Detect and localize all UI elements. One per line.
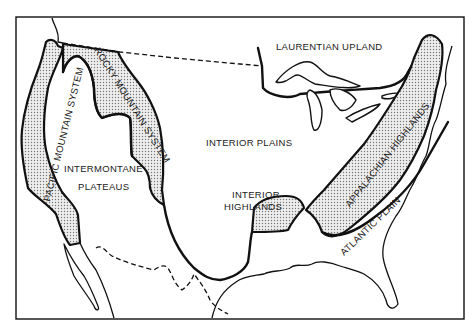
lake-huron — [330, 89, 356, 111]
lake-superior — [276, 62, 360, 88]
lake-michigan — [307, 90, 322, 130]
label-intermontane-1: INTERMONTANE — [64, 163, 143, 174]
baja-california — [64, 243, 114, 318]
mexico-border — [96, 247, 228, 314]
label-interior-highlands-1: INTERIOR — [232, 189, 280, 200]
appalachian-highlands-region — [306, 35, 443, 236]
gulf-coast — [212, 262, 340, 318]
interior-plains-boundary — [164, 205, 252, 280]
canada-border-solid — [52, 18, 63, 43]
label-interior-highlands-2: HIGHLANDS — [224, 201, 282, 212]
label-interior-plains: INTERIOR PLAINS — [206, 137, 292, 148]
label-intermontane-2: PLATEAUS — [78, 181, 129, 192]
physiographic-map: LAURENTIAN UPLAND INTERIOR PLAINS INTERM… — [0, 0, 476, 330]
label-laurentian-upland: LAURENTIAN UPLAND — [276, 41, 382, 52]
pacific-mountain-region — [21, 40, 80, 245]
